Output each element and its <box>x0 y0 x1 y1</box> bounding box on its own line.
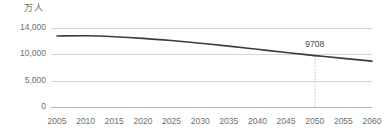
x-tick-label-2055: 2055 <box>334 117 353 126</box>
x-tick-label-2030: 2030 <box>191 117 210 126</box>
y-tick-label-0: 0 <box>0 102 46 111</box>
x-tick-label-2020: 2020 <box>133 117 152 126</box>
series-line-total-population <box>57 36 372 61</box>
y-tick-label-5000: 5,000 <box>0 76 46 85</box>
y-tick-label-14000: 14,000 <box>0 23 46 32</box>
x-tick-label-2015: 2015 <box>105 117 124 126</box>
x-tick-label-2040: 2040 <box>248 117 267 126</box>
x-tick-label-2045: 2045 <box>277 117 296 126</box>
x-tick-label-2060: 2060 <box>363 117 382 126</box>
x-tick-label-2005: 2005 <box>48 117 67 126</box>
data-point-annotation-9708: 9708 <box>305 40 324 49</box>
population-projection-chart: 万人 14,00010,0005,0000 200520102015202020… <box>0 0 384 137</box>
x-tick-label-2010: 2010 <box>76 117 95 126</box>
x-tick-label-2025: 2025 <box>162 117 181 126</box>
x-tick-label-2050: 2050 <box>305 117 324 126</box>
x-tick-label-2035: 2035 <box>219 117 238 126</box>
y-tick-label-10000: 10,000 <box>0 49 46 58</box>
